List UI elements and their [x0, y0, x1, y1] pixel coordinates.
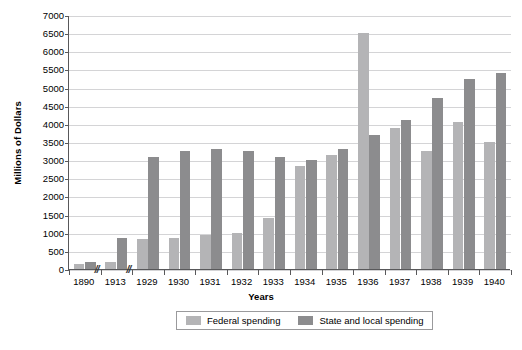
y-tick-label: 5000 — [30, 84, 64, 94]
y-tick-label: 1000 — [30, 229, 64, 239]
legend-item: Federal spending — [186, 315, 280, 326]
x-tick-label: 1938 — [415, 276, 447, 287]
x-axis-title: Years — [0, 291, 522, 302]
y-tick-label: 7000 — [30, 11, 64, 21]
y-tick-label: 0 — [30, 265, 64, 275]
y-tick-label: 500 — [30, 247, 64, 257]
x-tick-label: 1934 — [289, 276, 321, 287]
chart-legend: Federal spendingState and local spending — [176, 311, 433, 330]
y-tick-label: 2500 — [30, 174, 64, 184]
x-tick-label: 1931 — [194, 276, 226, 287]
x-tick-label: 1933 — [257, 276, 289, 287]
y-tick-label: 3500 — [30, 138, 64, 148]
y-tick-label: 6000 — [30, 47, 64, 57]
legend-label: State and local spending — [319, 315, 423, 326]
y-tick-label: 4000 — [30, 120, 64, 130]
y-tick-label: 3000 — [30, 156, 64, 166]
x-tick-label: 1935 — [321, 276, 353, 287]
x-tick-label: 1930 — [163, 276, 195, 287]
y-tick-label: 1500 — [30, 211, 64, 221]
axis-break-marker: // — [126, 264, 130, 275]
y-tick-label: 2000 — [30, 192, 64, 202]
y-tick-label: 4500 — [30, 102, 64, 112]
legend-swatch-icon — [298, 316, 313, 325]
x-tick-label: 1913 — [100, 276, 132, 287]
x-tick-label: 1939 — [447, 276, 479, 287]
y-axis-title: Millions of Dollars — [10, 16, 26, 270]
x-tick-label: 1890 — [68, 276, 100, 287]
legend-label: Federal spending — [207, 315, 280, 326]
x-tick-label: 1929 — [131, 276, 163, 287]
bar-chart: Millions of Dollars 70006500600055005000… — [0, 0, 522, 350]
y-tick-label: 6500 — [30, 29, 64, 39]
x-tick-label: 1936 — [352, 276, 384, 287]
axis-break-marker: // — [95, 264, 99, 275]
y-tick-label: 5500 — [30, 65, 64, 75]
legend-swatch-icon — [186, 316, 201, 325]
x-tick-mark — [511, 270, 512, 275]
x-tick-label: 1940 — [478, 276, 510, 287]
x-tick-label: 1932 — [226, 276, 258, 287]
legend-item: State and local spending — [298, 315, 423, 326]
x-tick-label: 1937 — [384, 276, 416, 287]
